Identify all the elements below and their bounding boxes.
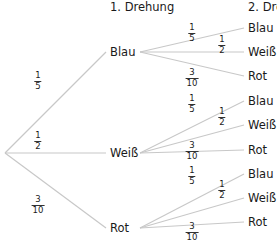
fraction-denominator: 5 — [188, 34, 195, 43]
fraction-numerator: 1 — [34, 71, 41, 80]
node-level2-weiß: Weiß — [248, 45, 276, 59]
prob-level1-0: 15 — [34, 71, 41, 91]
prob-level2-2-1: 12 — [218, 180, 225, 200]
fraction-numerator: 3 — [188, 68, 195, 77]
node-level1-rot: Rot — [110, 221, 129, 235]
fraction-numerator: 3 — [188, 222, 195, 231]
fraction-denominator: 5 — [188, 177, 195, 186]
node-level2-blau: Blau — [248, 21, 273, 35]
fraction-denominator: 10 — [32, 206, 45, 215]
fraction-numerator: 1 — [218, 35, 225, 44]
header-first-spin: 1. Drehung — [110, 0, 174, 14]
node-level2-blau: Blau — [248, 94, 273, 108]
fraction-numerator: 3 — [34, 195, 41, 204]
node-level1-weiß: Weiß — [110, 146, 138, 160]
prob-level2-0-0: 15 — [188, 23, 195, 43]
prob-level2-1-1: 12 — [218, 107, 225, 127]
fraction-numerator: 1 — [188, 166, 195, 175]
header-second-spin: 2. Drehung — [248, 0, 277, 14]
prob-level2-1-0: 15 — [188, 94, 195, 114]
fraction-denominator: 10 — [186, 233, 199, 242]
prob-level1-2: 310 — [32, 195, 45, 215]
fraction-numerator: 1 — [34, 131, 41, 140]
fraction-numerator: 1 — [188, 94, 195, 103]
prob-level1-1: 12 — [34, 131, 41, 151]
prob-level2-0-1: 12 — [218, 35, 225, 55]
fraction-denominator: 2 — [34, 142, 41, 151]
fraction-numerator: 1 — [218, 180, 225, 189]
prob-level2-2-0: 15 — [188, 166, 195, 186]
fraction-numerator: 1 — [218, 107, 225, 116]
node-level2-weiß: Weiß — [248, 118, 276, 132]
node-level2-rot: Rot — [248, 69, 267, 83]
prob-level2-0-2: 310 — [186, 68, 199, 88]
node-level2-blau: Blau — [248, 167, 273, 181]
fraction-denominator: 10 — [186, 152, 199, 161]
fraction-denominator: 2 — [218, 118, 225, 127]
fraction-denominator: 10 — [186, 79, 199, 88]
edge-root-2 — [5, 153, 106, 228]
node-level1-blau: Blau — [110, 45, 135, 59]
fraction-numerator: 1 — [188, 23, 195, 32]
fraction-denominator: 5 — [188, 105, 195, 114]
edge-root-0 — [5, 52, 106, 153]
prob-level2-2-2: 310 — [186, 222, 199, 242]
prob-level2-1-2: 310 — [186, 141, 199, 161]
node-level2-weiß: Weiß — [248, 191, 276, 205]
fraction-numerator: 3 — [188, 141, 195, 150]
node-level2-rot: Rot — [248, 143, 267, 157]
fraction-denominator: 5 — [34, 82, 41, 91]
fraction-denominator: 2 — [218, 191, 225, 200]
fraction-denominator: 2 — [218, 46, 225, 55]
node-level2-rot: Rot — [248, 215, 267, 229]
